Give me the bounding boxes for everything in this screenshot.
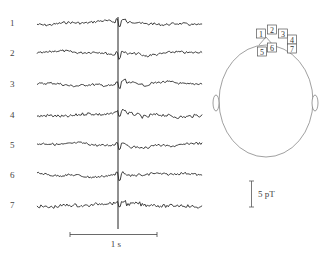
svg-text:5: 5 <box>260 48 264 57</box>
amplitude-scale-bar: 5 pT <box>249 181 275 207</box>
channel-trace <box>37 79 202 88</box>
head-diagram: 1234567 <box>213 25 318 157</box>
svg-text:4: 4 <box>290 36 294 45</box>
channel-label: 5 <box>10 140 15 150</box>
channel-label: 1 <box>10 18 15 28</box>
svg-text:1: 1 <box>259 30 263 39</box>
channel-labels: 1234567 <box>10 18 15 210</box>
sensor-3: 3 <box>279 29 288 39</box>
channel-label: 4 <box>10 110 15 120</box>
head-outline <box>219 45 313 157</box>
channel-label: 3 <box>10 79 15 89</box>
sensor-1: 1 <box>257 29 266 39</box>
channel-label: 2 <box>10 48 15 58</box>
svg-text:3: 3 <box>281 30 285 39</box>
channel-traces <box>37 19 202 209</box>
meg-figure: 1234567 1 s 1234567 5 pT <box>0 0 335 261</box>
svg-text:7: 7 <box>290 45 294 54</box>
channel-trace <box>37 200 202 208</box>
channel-label: 6 <box>10 170 15 180</box>
channel-trace <box>37 109 202 118</box>
time-scale-label: 1 s <box>111 239 122 249</box>
sensor-5: 5 <box>258 47 267 57</box>
sensor-2: 2 <box>268 25 277 35</box>
sensor-7: 7 <box>288 44 297 54</box>
svg-text:2: 2 <box>270 26 274 35</box>
channel-trace <box>37 172 202 181</box>
right-ear-icon <box>312 95 318 111</box>
amplitude-scale-label: 5 pT <box>258 189 275 199</box>
sensor-4: 4 <box>288 35 297 45</box>
channel-trace <box>37 19 202 27</box>
channel-label: 7 <box>10 200 15 210</box>
channel-trace <box>37 142 202 150</box>
svg-text:6: 6 <box>270 44 274 53</box>
channel-trace <box>37 50 202 60</box>
sensor-6: 6 <box>268 43 277 53</box>
left-ear-icon <box>213 95 219 111</box>
time-scale-bar: 1 s <box>70 232 157 249</box>
